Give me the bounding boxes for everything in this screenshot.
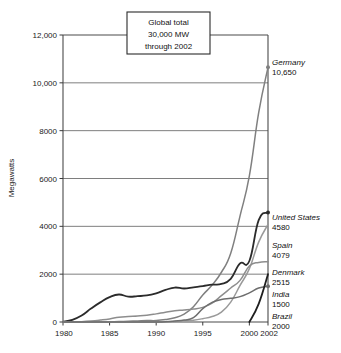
series-label-name: India <box>272 290 290 299</box>
y-tick-label: 4000 <box>39 222 57 231</box>
x-tick-label: 1995 <box>194 329 212 338</box>
series-label-value: 2515 <box>272 278 290 287</box>
x-tick-label: 1980 <box>55 329 73 338</box>
series-label-name: Spain <box>272 241 293 250</box>
y-tick-label: 0 <box>53 318 58 327</box>
series-label-value: 2000 <box>272 322 290 331</box>
x-tick-label: 2000 <box>240 329 258 338</box>
endpoint-marker-india <box>266 284 270 288</box>
series-label-value: 4580 <box>272 223 290 232</box>
y-tick-label: 8000 <box>39 127 57 136</box>
callout-line-2: 30,000 MW <box>148 30 189 39</box>
x-tick-label: 1990 <box>147 329 165 338</box>
callout-line-1: Global total <box>148 18 189 27</box>
series-label-name: Brazil <box>272 312 292 321</box>
series-label-name: United States <box>272 213 320 222</box>
callout-line-3: through 2002 <box>145 42 193 51</box>
y-tick-label: 6000 <box>39 175 57 184</box>
endpoint-marker-germany <box>266 65 270 69</box>
endpoint-marker-united-states <box>266 210 270 214</box>
x-tick-label: 1985 <box>101 329 119 338</box>
y-tick-label: 2000 <box>39 270 57 279</box>
series-label-name: Denmark <box>272 268 305 277</box>
wind-capacity-line-chart: 0200040006000800010,00012,000 1980198519… <box>0 0 341 353</box>
y-axis-title: Megawatts <box>7 159 16 198</box>
series-label-value: 1500 <box>272 300 290 309</box>
series-label-value: 4079 <box>272 251 290 260</box>
series-label-value: 10,650 <box>272 68 297 77</box>
chart-canvas: 0200040006000800010,00012,000 1980198519… <box>0 0 341 353</box>
y-tick-label: 12,000 <box>33 31 58 40</box>
y-tick-label: 10,000 <box>33 79 58 88</box>
global-total-callout: Global total 30,000 MW through 2002 <box>127 12 210 54</box>
series-label-name: Germany <box>272 58 306 67</box>
